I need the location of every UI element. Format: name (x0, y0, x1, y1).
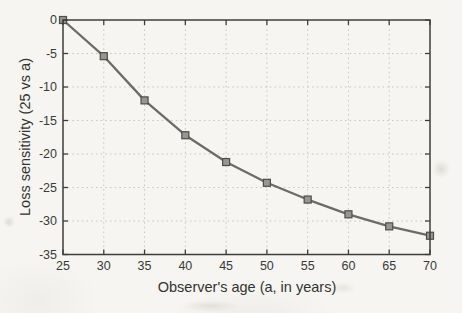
x-tick-label: 25 (56, 259, 70, 273)
x-tick-label: 35 (138, 259, 152, 273)
y-tick-label: -10 (39, 80, 57, 94)
y-tick-label: -30 (39, 214, 57, 228)
data-point-marker (100, 53, 107, 60)
x-tick-label: 70 (423, 259, 437, 273)
grid-layer (63, 20, 430, 255)
x-tick-label: 65 (382, 259, 396, 273)
data-point-marker (182, 132, 189, 139)
x-tick-label: 50 (260, 259, 274, 273)
data-line (63, 20, 430, 236)
x-tick-label: 40 (178, 259, 192, 273)
data-point-marker (263, 179, 270, 186)
page: { "chart_data": { "type": "line", "title… (0, 0, 462, 313)
data-series-layer (60, 17, 434, 240)
y-tick-label: -15 (39, 114, 57, 128)
scanned-figure: 253035404550556065700-5-10-15-20-25-30-3… (0, 0, 462, 313)
y-tick-label: -20 (39, 147, 57, 161)
axes-layer (63, 20, 430, 255)
data-point-marker (304, 196, 311, 203)
line-chart: 253035404550556065700-5-10-15-20-25-30-3… (0, 0, 462, 313)
x-tick-label: 30 (97, 259, 111, 273)
x-tick-label: 60 (341, 259, 355, 273)
x-tick-label: 45 (219, 259, 233, 273)
data-point-marker (141, 97, 148, 104)
data-point-marker (345, 211, 352, 218)
x-axis-label: Observer's age (a, in years) (158, 279, 336, 295)
y-tick-label: -5 (46, 47, 57, 61)
y-tick-label: -25 (39, 181, 57, 195)
y-axis-label: Loss sensitivity (25 vs a) (17, 58, 33, 216)
data-point-marker (386, 223, 393, 230)
y-tick-label: -35 (39, 248, 57, 262)
y-tick-label: 0 (50, 13, 57, 27)
data-point-marker (223, 159, 230, 166)
x-tick-label: 55 (301, 259, 315, 273)
axes-box (63, 20, 430, 255)
